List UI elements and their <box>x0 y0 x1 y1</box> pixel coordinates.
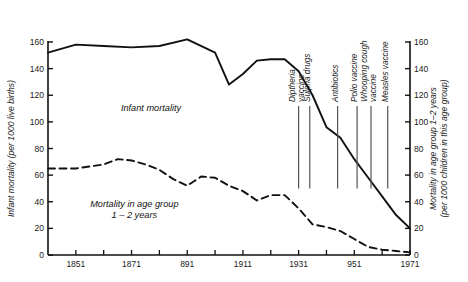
x-tick-label: 951 <box>347 259 361 269</box>
y-tick-label-left: 80 <box>35 144 45 154</box>
y-tick-label-left: 60 <box>35 170 45 180</box>
annotation-label: Measles vaccine <box>381 41 390 102</box>
y-tick-label-right: 80 <box>414 144 424 154</box>
annotation-label: Antibiotics <box>331 65 340 103</box>
y-tick-label-left: 140 <box>30 64 44 74</box>
y-tick-label-left: 160 <box>30 37 44 47</box>
series-label-age-1-2-years: Mortality in age group1 – 2 years <box>90 199 178 220</box>
annotation-label: Whooping coughvaccine <box>360 40 378 102</box>
y-tick-label-left: 100 <box>30 117 44 127</box>
y-tick-label-left: 40 <box>35 197 45 207</box>
y-axis-label-left: Infant mortality (per 1000 live births) <box>6 80 16 217</box>
x-tick-label: 1871 <box>122 259 141 269</box>
series-label-infant-mortality: Infant mortality <box>121 103 183 113</box>
y-axis-label-right: Mortality in age group 1–2 years(per 100… <box>428 79 449 217</box>
x-tick-label: 891 <box>180 259 194 269</box>
annotation-label: Sulpha drugs <box>303 54 312 102</box>
x-tick-label: 1851 <box>66 259 85 269</box>
mortality-line-chart: 0204060801001201401600204060801001201401… <box>0 0 468 282</box>
y-tick-label-left: 20 <box>35 223 45 233</box>
y-tick-label-right: 60 <box>414 170 424 180</box>
y-tick-label-right: 120 <box>414 90 428 100</box>
y-tick-label-right: 100 <box>414 117 428 127</box>
x-tick-label: 1931 <box>289 259 308 269</box>
y-tick-label-left: 120 <box>30 90 44 100</box>
y-tick-label-left: 0 <box>39 250 44 260</box>
x-tick-label: 1911 <box>234 259 253 269</box>
x-tick-label: 1971 <box>401 259 420 269</box>
chart-figure: 0204060801001201401600204060801001201401… <box>0 0 468 282</box>
y-tick-label-right: 20 <box>414 223 424 233</box>
y-tick-label-right: 140 <box>414 64 428 74</box>
annotation-label: Polio vaccine <box>350 53 359 102</box>
y-tick-label-right: 160 <box>414 37 428 47</box>
y-tick-label-right: 40 <box>414 197 424 207</box>
